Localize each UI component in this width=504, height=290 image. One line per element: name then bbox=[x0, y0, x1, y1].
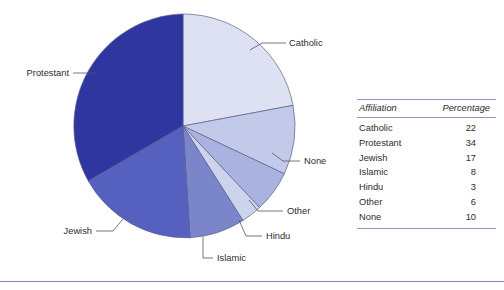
cell-percentage: 8 bbox=[420, 165, 496, 180]
pie-chart-figure: Catholic Protestant Jewish Islamic Hindu… bbox=[0, 0, 340, 275]
pie-label-jewish: Jewish bbox=[64, 226, 92, 236]
cell-affiliation: Other bbox=[357, 195, 420, 210]
cell-percentage: 3 bbox=[420, 180, 496, 195]
pie-label-none: None bbox=[304, 156, 326, 166]
table-head: Affiliation Percentage bbox=[357, 100, 496, 118]
cell-affiliation: Protestant bbox=[357, 135, 420, 150]
cell-percentage: 22 bbox=[420, 118, 496, 136]
table-row: Islamic 8 bbox=[357, 165, 496, 180]
pie-label-protestant: Protestant bbox=[27, 68, 70, 78]
table-body: Catholic 22 Protestant 34 Jewish 17 Isla… bbox=[357, 118, 496, 225]
cell-percentage: 17 bbox=[420, 150, 496, 165]
leader-line-hindu bbox=[239, 220, 262, 236]
table-row: None 10 bbox=[357, 209, 496, 224]
table-header-affiliation: Affiliation bbox=[357, 100, 420, 118]
leader-line-islamic bbox=[203, 237, 213, 258]
table-row: Hindu 3 bbox=[357, 180, 496, 195]
pie-chart-svg: Catholic Protestant Jewish Islamic Hindu… bbox=[0, 0, 340, 275]
table-row: Jewish 17 bbox=[357, 150, 496, 165]
cell-affiliation: Hindu bbox=[357, 180, 420, 195]
pie-label-other: Other bbox=[287, 206, 310, 216]
leader-line-jewish bbox=[96, 219, 123, 231]
table-row: Other 6 bbox=[357, 195, 496, 210]
cell-affiliation: Catholic bbox=[357, 118, 420, 136]
pie-label-catholic: Catholic bbox=[289, 38, 323, 48]
cell-percentage: 34 bbox=[420, 135, 496, 150]
page-bottom-divider bbox=[0, 281, 504, 282]
cell-affiliation: None bbox=[357, 209, 420, 224]
table-bottom-rule bbox=[357, 228, 496, 229]
figure-canvas: Catholic Protestant Jewish Islamic Hindu… bbox=[0, 0, 504, 290]
cell-affiliation: Islamic bbox=[357, 165, 420, 180]
table: Affiliation Percentage Catholic 22 Prote… bbox=[357, 99, 496, 224]
cell-affiliation: Jewish bbox=[357, 150, 420, 165]
table-row: Catholic 22 bbox=[357, 118, 496, 136]
cell-percentage: 6 bbox=[420, 195, 496, 210]
pie-label-islamic: Islamic bbox=[217, 253, 246, 263]
table-header-row: Affiliation Percentage bbox=[357, 100, 496, 118]
table-header-percentage: Percentage bbox=[420, 100, 496, 118]
pie-label-hindu: Hindu bbox=[266, 231, 290, 241]
table-row: Protestant 34 bbox=[357, 135, 496, 150]
affiliation-percentage-table: Affiliation Percentage Catholic 22 Prote… bbox=[357, 99, 496, 229]
cell-percentage: 10 bbox=[420, 209, 496, 224]
